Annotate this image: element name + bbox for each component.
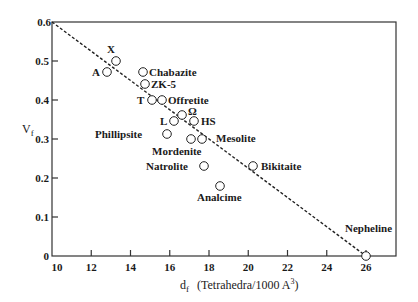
label-natrolite: Natrolite bbox=[146, 160, 188, 172]
x-tick-label: 12 bbox=[86, 261, 98, 273]
label-mordenite: Mordenite bbox=[152, 145, 202, 157]
x-tick-labels: 10 12 14 16 18 20 22 24 26 bbox=[52, 261, 373, 273]
point-analcime bbox=[216, 182, 225, 191]
point-nepheline bbox=[362, 252, 371, 261]
x-axis-title: df(Tetrahedra/1000 A3) bbox=[180, 277, 298, 294]
label-omega: Ω bbox=[188, 105, 197, 117]
point-l bbox=[170, 117, 179, 126]
x-tick-label: 24 bbox=[321, 261, 333, 273]
label-t: T bbox=[137, 94, 145, 106]
x-tick-label: 18 bbox=[204, 261, 216, 273]
y-tick-label: 0.4 bbox=[35, 94, 49, 106]
y-axis-title: Vf bbox=[22, 122, 34, 138]
y-tick-label: 0.6 bbox=[37, 16, 51, 28]
point-phillipsite bbox=[163, 130, 172, 139]
scatter-chart: 0 0.1 0.2 0.3 0.4 0.5 0.6 10 12 14 16 18… bbox=[0, 0, 418, 302]
point-mordenite bbox=[187, 135, 196, 144]
y-tick-label: 0.1 bbox=[35, 211, 49, 223]
point-zk5 bbox=[141, 80, 150, 89]
x-tick-label: 22 bbox=[282, 261, 294, 273]
point-x bbox=[112, 57, 121, 66]
x-tick-label: 10 bbox=[52, 261, 64, 273]
label-l: L bbox=[160, 115, 167, 127]
point-mesolite bbox=[198, 135, 207, 144]
point-chabazite bbox=[139, 68, 148, 77]
x-tick-label: 14 bbox=[125, 261, 137, 273]
label-analcime: Analcime bbox=[197, 191, 242, 203]
y-tick-label: 0.2 bbox=[35, 172, 49, 184]
label-zk5: ZK-5 bbox=[151, 78, 177, 90]
point-omega bbox=[178, 111, 187, 120]
label-x: X bbox=[107, 43, 115, 55]
y-tick-labels: 0 0.1 0.2 0.3 0.4 0.5 0.6 bbox=[35, 16, 51, 262]
x-ticks bbox=[91, 250, 366, 256]
y-ticks bbox=[52, 61, 58, 217]
x-tick-label: 16 bbox=[164, 261, 176, 273]
y-tick-label: 0.3 bbox=[35, 133, 49, 145]
point-hs bbox=[190, 117, 199, 126]
point-labels: X A Chabazite ZK-5 T Offretite Ω L HS Ph… bbox=[92, 43, 392, 234]
y-tick-label: 0.5 bbox=[35, 55, 49, 67]
label-a: A bbox=[92, 66, 100, 78]
point-bikitaite bbox=[249, 162, 258, 171]
point-natrolite bbox=[200, 162, 209, 171]
label-bikitaite: Bikitaite bbox=[261, 160, 301, 172]
point-offretite bbox=[158, 96, 167, 105]
x-tick-label: 20 bbox=[243, 261, 255, 273]
label-mesolite: Mesolite bbox=[216, 132, 256, 144]
x-tick-label: 26 bbox=[361, 261, 373, 273]
label-chabazite: Chabazite bbox=[149, 66, 197, 78]
label-hs: HS bbox=[201, 115, 216, 127]
label-phillipsite: Phillipsite bbox=[95, 128, 142, 140]
point-a bbox=[103, 68, 112, 77]
y-tick-label: 0 bbox=[44, 250, 50, 262]
point-t bbox=[148, 96, 157, 105]
label-nepheline: Nepheline bbox=[345, 222, 392, 234]
